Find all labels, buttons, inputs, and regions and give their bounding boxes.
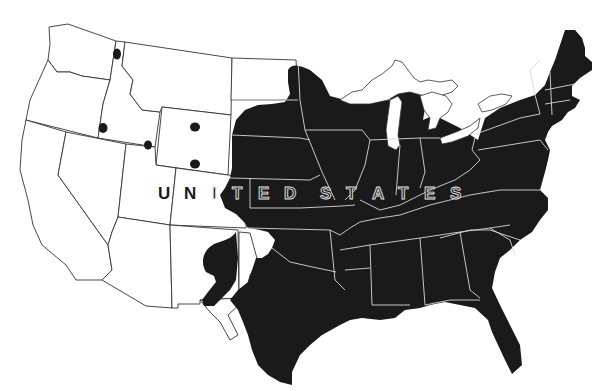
occurrence-dot-2 [99, 123, 108, 133]
label-letter-s2: S [450, 184, 461, 203]
occurrence-dot-4 [190, 123, 200, 132]
us-map-svg: U N I T E D S T A T E S [0, 0, 598, 391]
label-letter-n: N [184, 184, 196, 203]
label-letter-s1: S [320, 184, 331, 203]
state-montana [122, 42, 232, 115]
occurrence-dot-1 [113, 49, 121, 60]
label-letter-i: I [212, 184, 217, 203]
label-letter-t2: T [346, 184, 357, 203]
occurrence-dot-5 [190, 160, 200, 169]
label-letter-e2: E [424, 184, 435, 203]
state-arizona [102, 217, 172, 308]
label-letter-t: T [232, 184, 243, 203]
label-letter-a: A [372, 184, 384, 203]
label-letter-e: E [258, 184, 269, 203]
state-north-dakota [231, 58, 298, 100]
label-letter-t3: T [398, 184, 409, 203]
label-letter-d: D [284, 184, 296, 203]
occurrence-dot-3 [144, 141, 152, 150]
label-letter-u: U [158, 184, 170, 203]
